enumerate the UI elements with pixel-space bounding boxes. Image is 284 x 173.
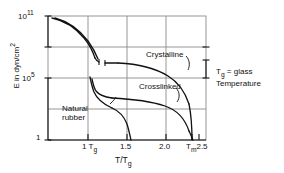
series-label-crystalline: Crystalline: [146, 50, 183, 59]
y-tick-label-1e11: 1011: [18, 9, 34, 21]
x-tick-label-1-5: 1.5: [120, 142, 131, 151]
chart-figure: E in dyn/cm2 1011 105 1 1 Tg 1.5 2.0 Tm2…: [0, 0, 284, 173]
x-axis-title: T/Tg: [115, 155, 132, 168]
series-natural-rubber: [90, 77, 131, 140]
x-tick-label-2-0: 2.0: [159, 142, 170, 151]
y-tick-label-1e5: 105: [22, 71, 35, 83]
x-axis: [48, 134, 206, 140]
y-tick-label-1: 1: [36, 133, 40, 142]
series-label-crosslinked: Crosslinked: [139, 82, 181, 91]
x-tick-label-tg: 1 Tg: [82, 142, 97, 153]
y-axis-title: E in dyn/cm2: [9, 31, 21, 101]
curve-end-marks: [99, 59, 105, 66]
series-label-natural-rubber: Naturalrubber: [62, 104, 88, 122]
x-tick-label-tm-2-5: Tm2.5: [186, 142, 208, 153]
annotation-tg-definition: Tg = glassTemperature: [216, 67, 261, 89]
y-axis: [45, 16, 52, 140]
